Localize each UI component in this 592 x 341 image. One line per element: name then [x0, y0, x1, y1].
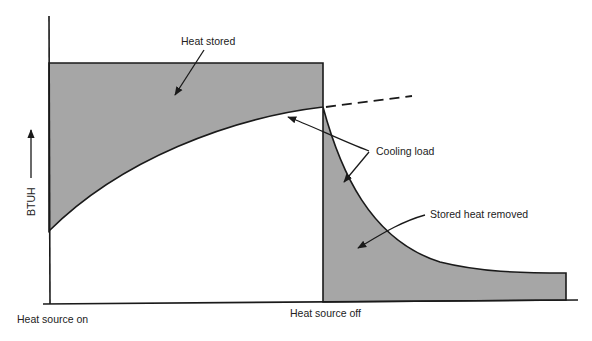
- heat-source-on-label: Heat source on: [17, 313, 88, 325]
- cooling-load-extension-dashed: [326, 96, 412, 107]
- heat-storage-cooling-load-diagram: BTUH Heat stored Cooling load Stored hea…: [0, 0, 592, 341]
- heat-source-off-label: Heat source off: [290, 307, 361, 319]
- cooling-load-arrow-down-icon: [344, 152, 369, 182]
- heat-stored-area: [49, 63, 323, 231]
- y-axis-label: BTUH: [25, 187, 37, 216]
- y-axis: [49, 16, 50, 304]
- stored-heat-removed-area: [323, 107, 566, 302]
- cooling-load-label: Cooling load: [376, 145, 435, 157]
- x-axis: [43, 300, 578, 304]
- heat-stored-label: Heat stored: [181, 35, 235, 47]
- stored-heat-removed-label: Stored heat removed: [430, 208, 528, 220]
